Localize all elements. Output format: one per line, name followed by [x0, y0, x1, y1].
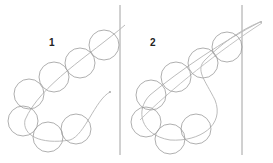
panel-label-1: 1	[49, 37, 55, 48]
panel-label-2: 2	[150, 37, 156, 48]
bead-circle	[155, 124, 185, 154]
bead-circle	[89, 30, 119, 60]
bead-circle	[39, 62, 69, 92]
bead-circle	[65, 48, 95, 78]
thread-end-dot-1	[109, 91, 111, 93]
bead-circle	[61, 114, 91, 144]
diagram-canvas: 1 2	[0, 0, 273, 163]
bead-circle	[14, 79, 44, 109]
bead-circle	[33, 122, 63, 152]
panel-1: 1	[8, 5, 125, 155]
bead-circle	[8, 106, 38, 136]
panel-2: 2	[131, 5, 262, 155]
thread-end-dot-2	[260, 21, 262, 23]
bead-circle	[181, 114, 211, 144]
bead-circle	[136, 80, 166, 110]
